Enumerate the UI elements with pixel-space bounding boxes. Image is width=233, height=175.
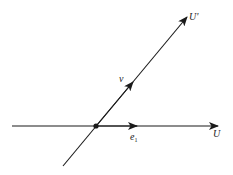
label-u-prime: U' [189, 11, 199, 22]
label-e1-subscript: 1 [134, 137, 137, 143]
vector-v-arrow [96, 82, 133, 126]
origin-point [93, 123, 98, 128]
diagram-canvas: U' v U e1 [0, 0, 233, 175]
label-v: v [119, 73, 124, 84]
label-e1: e1 [130, 131, 137, 143]
label-u: U [213, 128, 221, 139]
